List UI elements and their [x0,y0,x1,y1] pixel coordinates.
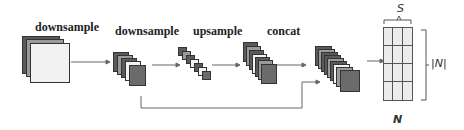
matrix-name-n: N [393,113,402,126]
output-matrix-n [383,27,413,101]
height-label-n: |N| [431,57,447,70]
